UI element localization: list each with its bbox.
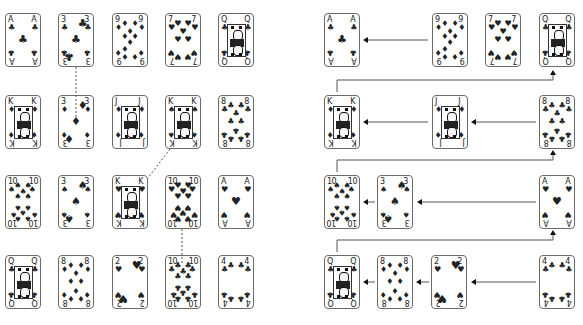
suit-pip-icon: ♦ xyxy=(386,278,393,286)
card-rank-label: 9♦ xyxy=(458,16,465,32)
wrap-connector-line xyxy=(337,154,553,172)
suit-pip-icon: ♥ xyxy=(185,36,192,44)
suit-icon: ♦ xyxy=(84,290,91,298)
suit-pip-icon: ♥ xyxy=(174,193,181,201)
suit-icon: ♥ xyxy=(511,24,518,32)
suit-pip-icon: ♦ xyxy=(391,286,398,294)
playing-card: 3♠3♠3♠3♠♠♠♠ xyxy=(377,175,413,229)
card-rank-label: 3♣ xyxy=(61,16,68,32)
suit-pip-icon: ♠ xyxy=(25,214,32,222)
suit-icon: ♥ xyxy=(221,210,228,218)
card-rank-label: 3♠ xyxy=(61,178,68,194)
suit-pip-icon: ♣ xyxy=(174,273,181,281)
suit-pip-icon: ♠ xyxy=(397,182,407,190)
card-rank-label: 7♥ xyxy=(191,16,198,32)
face-card-portrait-icon xyxy=(121,186,140,219)
suit-icon: ♠ xyxy=(84,210,91,218)
suit-icon: ♠ xyxy=(403,210,410,218)
card-rank-label: 8♦ xyxy=(403,290,410,306)
suit-pip-icon: ♦ xyxy=(72,286,79,294)
suit-pip-icon: ♥ xyxy=(494,36,501,44)
arrow-up-icon xyxy=(550,230,556,235)
suit-pip-icon: ♥ xyxy=(185,52,192,60)
suit-pip-icon: ♥ xyxy=(552,198,562,206)
face-card-portrait-icon xyxy=(333,106,352,139)
suit-icon: ♦ xyxy=(403,290,410,298)
playing-card: 4♣4♣4♣4♣♣♣♣♣ xyxy=(218,255,254,309)
suit-pip-icon: ♣ xyxy=(559,262,566,270)
suit-icon: ♥ xyxy=(244,210,251,218)
arrow-left-icon xyxy=(471,279,476,285)
suit-icon: ♣ xyxy=(565,130,572,138)
suit-pip-icon: ♠ xyxy=(344,193,351,201)
suit-icon: ♣ xyxy=(244,130,251,138)
suit-pip-icon: ♦ xyxy=(397,294,404,302)
playing-card: K♦K♦K♦K♦ xyxy=(5,95,41,149)
suit-icon: ♣ xyxy=(350,24,357,32)
suit-pip-icon: ♠ xyxy=(25,193,32,201)
suit-icon: ♥ xyxy=(565,186,572,194)
suit-pip-icon: ♣ xyxy=(559,134,566,142)
suit-icon: ♦ xyxy=(61,106,68,114)
suit-icon: ♣ xyxy=(8,48,15,56)
card-rank-label: 8♣ xyxy=(565,130,572,146)
card-rank-label: 8♦ xyxy=(403,258,410,274)
suit-pip-icon: ♦ xyxy=(386,294,393,302)
arrow-left-icon xyxy=(363,199,368,205)
suit-pip-icon: ♣ xyxy=(238,134,245,142)
suit-icon: ♣ xyxy=(327,24,334,32)
card-rank-label: 7♥ xyxy=(191,48,198,64)
suit-pip-icon: ♣ xyxy=(71,36,81,44)
suit-pip-icon: ♠ xyxy=(344,214,351,222)
card-rank-label: 3♠ xyxy=(380,178,387,194)
playing-card: 8♦8♦8♦8♦♦♦♦♦♦♦♦♦ xyxy=(58,255,94,309)
arrow-left-icon xyxy=(363,119,368,125)
arrow-left-icon xyxy=(471,119,476,125)
suit-icon: ♦ xyxy=(403,266,410,274)
suit-pip-icon: ♣ xyxy=(559,118,566,126)
playing-card: Q♣Q♣Q♣Q♣ xyxy=(324,255,360,309)
suit-pip-icon: ♦ xyxy=(64,134,74,142)
playing-card: 8♣8♣8♣8♣♣♣♣♣♣♣♣♣ xyxy=(218,95,254,149)
wrap-connector-line xyxy=(337,74,553,92)
suit-pip-icon: ♠ xyxy=(14,193,21,201)
card-rank-label: A♥ xyxy=(565,178,572,194)
suit-pip-icon: ♣ xyxy=(337,36,347,44)
suit-pip-icon: ♣ xyxy=(548,134,555,142)
suit-icon: ♣ xyxy=(565,106,572,114)
suit-icon: ♥ xyxy=(221,186,228,194)
card-rank-label: A♣ xyxy=(327,16,334,32)
suit-pip-icon: ♥ xyxy=(174,214,181,222)
suit-pip-icon: ♥ xyxy=(174,52,181,60)
suit-pip-icon: ♠ xyxy=(14,214,21,222)
suit-pip-icon: ♣ xyxy=(227,118,234,126)
suit-pip-icon: ♦ xyxy=(71,118,81,126)
suit-icon: ♥ xyxy=(115,266,122,274)
suit-icon: ♥ xyxy=(138,290,145,298)
suit-icon: ♥ xyxy=(511,48,518,56)
suit-pip-icon: ♣ xyxy=(548,262,555,270)
card-rank-label: 7♥ xyxy=(511,16,518,32)
suit-icon: ♣ xyxy=(565,290,572,298)
suit-icon: ♥ xyxy=(191,24,198,32)
face-card-portrait-icon xyxy=(14,266,33,299)
card-rank-label: 3♦ xyxy=(84,130,91,146)
playing-card: Q♣Q♣Q♣Q♣ xyxy=(218,13,254,67)
suit-pip-icon: ♣ xyxy=(227,262,234,270)
card-rank-label: 7♥ xyxy=(511,48,518,64)
card-rank-label: 4♣ xyxy=(244,290,251,306)
card-rank-label: 8♦ xyxy=(84,290,91,306)
suit-icon: ♠ xyxy=(61,186,68,194)
arrow-up-icon xyxy=(550,150,556,155)
playing-card: 10♠10♠10♠10♠♠♠♠♠♠♠♠♠♠♠ xyxy=(5,175,41,229)
card-rank-label: A♥ xyxy=(542,210,549,226)
suit-pip-icon: ♣ xyxy=(227,134,234,142)
card-rank-label: 8♣ xyxy=(565,98,572,114)
suit-pip-icon: ♦ xyxy=(441,44,448,52)
playing-card: 2♥2♥2♥2♥♥♥ xyxy=(431,255,467,309)
face-card-portrait-icon xyxy=(441,106,460,139)
suit-icon: ♥ xyxy=(457,290,464,298)
suit-pip-icon: ♣ xyxy=(64,52,74,60)
suit-icon: ♥ xyxy=(434,266,441,274)
arrow-left-icon xyxy=(416,279,421,285)
